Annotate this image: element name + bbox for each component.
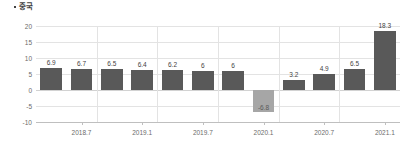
bar-value-label: -6.8 bbox=[258, 104, 269, 111]
bar[interactable] bbox=[344, 69, 366, 90]
y-axis-tick-label: 10 bbox=[25, 55, 32, 62]
bar[interactable] bbox=[131, 70, 153, 90]
bar[interactable] bbox=[40, 68, 62, 90]
bar[interactable] bbox=[71, 69, 93, 90]
bar-value-label: 6 bbox=[201, 62, 205, 69]
bar-value-label: 3.2 bbox=[289, 71, 298, 78]
bar[interactable] bbox=[192, 71, 214, 90]
y-axis-tick-label: -10 bbox=[23, 119, 32, 126]
bar-value-label: 4.9 bbox=[320, 65, 329, 72]
category-separator bbox=[97, 26, 98, 122]
plot-area: 20151050-5-106.96.76.56.46.266-6.83.24.9… bbox=[36, 26, 400, 122]
category-separator bbox=[339, 26, 340, 122]
x-axis-tick-mark bbox=[82, 122, 83, 125]
x-axis-tick-label: 2020.7 bbox=[314, 129, 334, 136]
chart-container: 중국 20151050-5-106.96.76.56.46.266-6.83.2… bbox=[0, 0, 408, 149]
y-axis-tick-label: -5 bbox=[26, 103, 32, 110]
x-axis-tick-mark bbox=[142, 122, 143, 125]
category-separator bbox=[157, 26, 158, 122]
chart-title-text: 중국 bbox=[19, 2, 33, 11]
x-axis-tick-label: 2021.1 bbox=[375, 129, 395, 136]
x-axis-tick-mark bbox=[203, 122, 204, 125]
y-axis-tick-label: 20 bbox=[25, 23, 32, 30]
x-axis-tick-label: 2019.7 bbox=[193, 129, 213, 136]
x-axis-tick-mark bbox=[264, 122, 265, 125]
bar[interactable] bbox=[313, 74, 335, 90]
x-axis: 2018.72019.12019.72020.12020.72021.1 bbox=[36, 122, 400, 149]
bar-value-label: 6.7 bbox=[77, 60, 86, 67]
x-axis-tick-label: 2020.1 bbox=[254, 129, 274, 136]
bar-value-label: 6.2 bbox=[168, 61, 177, 68]
bar[interactable] bbox=[162, 70, 184, 90]
x-axis-tick-label: 2018.7 bbox=[72, 129, 92, 136]
bullet-icon bbox=[14, 6, 16, 8]
bar[interactable] bbox=[101, 69, 123, 90]
y-axis-tick-label: 5 bbox=[28, 71, 32, 78]
bar-value-label: 6.5 bbox=[107, 60, 116, 67]
y-axis-tick-label: 0 bbox=[28, 87, 32, 94]
bar[interactable] bbox=[283, 80, 305, 90]
x-axis-tick-mark bbox=[324, 122, 325, 125]
bar-value-label: 6.4 bbox=[138, 61, 147, 68]
chart-title: 중국 bbox=[14, 2, 33, 12]
bar[interactable] bbox=[374, 31, 396, 90]
bar-value-label: 6.5 bbox=[350, 60, 359, 67]
bar[interactable] bbox=[222, 71, 244, 90]
bar-value-label: 6.9 bbox=[47, 59, 56, 66]
bar-value-label: 6 bbox=[231, 62, 235, 69]
bar-value-label: 18.3 bbox=[379, 22, 392, 29]
category-separator bbox=[218, 26, 219, 122]
category-separator bbox=[279, 26, 280, 122]
y-axis-tick-label: 15 bbox=[25, 39, 32, 46]
x-axis-tick-label: 2019.1 bbox=[132, 129, 152, 136]
x-axis-tick-mark bbox=[385, 122, 386, 125]
